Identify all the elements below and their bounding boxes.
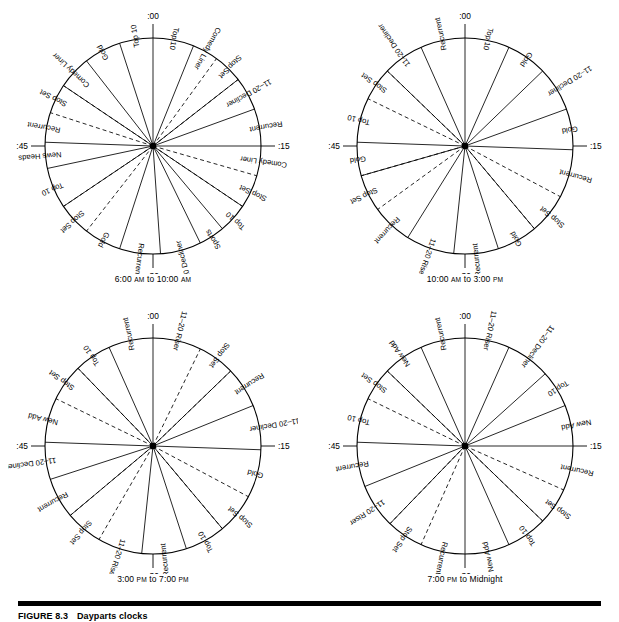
segment-divider (357, 442, 465, 446)
segment-divider (109, 347, 153, 446)
daypart-clock-afternoon: 11–20 RiserStop SetRecurrent11–20 Declin… (8, 306, 298, 606)
segment-label: Recurrent (133, 243, 146, 274)
hour-marker-label: :00 (459, 311, 471, 321)
segment-divider (421, 347, 465, 446)
meridiem-label: AM (451, 276, 461, 283)
segment-divider (153, 109, 254, 146)
segment-label: News Heads (18, 150, 62, 163)
segment-label: 11–20 Decliner (224, 77, 273, 110)
clock-caption-clock-evening: 7:00 PM to Midnight (320, 574, 610, 584)
segment-label: Top 10 (517, 524, 537, 548)
segment-label: New Add (480, 541, 495, 573)
segment-label: New Add (560, 418, 592, 433)
figure-title: Dayparts clocks (77, 611, 148, 621)
segment-label: Top 10 (347, 113, 371, 127)
daypart-clock-evening: 11–20 Riser11–20 DeclinerTop 10New AddRe… (320, 306, 610, 606)
segment-divider (70, 446, 153, 515)
segment-label: Comedy Liner (239, 154, 288, 170)
segment-label: New Add (27, 411, 59, 427)
hour-marker-label: :15 (278, 441, 290, 451)
meridiem-label: AM (134, 276, 144, 283)
segment-label: Stop Set (58, 209, 86, 236)
segment-divider (153, 371, 231, 446)
segment-label: Gold (95, 43, 110, 61)
segment-divider (465, 374, 545, 446)
segment-divider-dashed (378, 146, 465, 209)
hour-marker-label: :45 (328, 441, 340, 451)
segment-label: Stop Set (348, 185, 379, 206)
segment-divider-dashed (87, 146, 153, 231)
segment-divider (465, 47, 509, 146)
segment-divider-dashed (368, 399, 465, 446)
clock-hub (150, 143, 156, 149)
segment-label: 11–20 Riser (171, 310, 189, 352)
segment-divider (63, 146, 153, 206)
hour-marker-label: :15 (590, 441, 602, 451)
segment-label: Top 10 (196, 530, 215, 554)
segment-label: Recurrent (470, 242, 483, 274)
figure-caption: FIGURE 8.3Dayparts clocks (18, 611, 601, 621)
segment-divider (153, 146, 161, 254)
segment-divider (465, 446, 543, 521)
segment-divider (87, 61, 153, 146)
segment-divider (153, 146, 243, 206)
segment-divider (50, 446, 153, 479)
segment-divider-dashed (50, 113, 153, 146)
meridiem-label: PM (137, 576, 147, 583)
segment-label: 11–20 Riser (106, 538, 127, 574)
segment-divider (390, 446, 465, 524)
clock-diagram-clock-evening: 11–20 Riser11–20 DeclinerTop 10New AddRe… (320, 306, 610, 574)
segment-label: 11–20 Riser (481, 310, 498, 352)
clock-caption-clock-afternoon: 3:00 PM to 7:00 PM (8, 574, 298, 584)
hour-marker-label: :00 (459, 11, 471, 21)
segment-divider (387, 371, 465, 446)
segment-label: Stop Set (68, 518, 94, 547)
figure-page: Top 10Comedy LinerStop Set11–20 Decliner… (0, 0, 619, 622)
segment-label: Top 10 (81, 344, 101, 368)
segment-divider (45, 142, 153, 146)
segment-divider-dashed (153, 349, 200, 446)
segment-divider (465, 146, 534, 229)
segment-label: Stop Set (216, 53, 243, 81)
segment-label: Recurrent (334, 459, 369, 474)
segment-label: Top 10 (546, 379, 570, 399)
meridiem-label: PM (447, 576, 457, 583)
segment-divider (465, 71, 543, 146)
segment-divider (465, 146, 498, 249)
segment-label: Recurrent (121, 316, 137, 351)
segment-divider (153, 46, 193, 146)
segment-label: Gold (96, 231, 111, 249)
segment-label: Top 10 (129, 24, 141, 48)
segment-divider-dashed (153, 59, 216, 146)
segment-label: Recurrent (434, 541, 450, 574)
segment-divider (153, 406, 253, 446)
segment-label: Recurrent (433, 16, 449, 51)
hour-marker-label: :15 (590, 141, 602, 151)
figure-divider-rule (18, 601, 601, 606)
clock-hub (462, 143, 468, 149)
daypart-clock-midday: Top 10Gold11–20 DeclinerGoldRecurrentSto… (320, 6, 610, 306)
segment-label: Recurrent (26, 120, 61, 135)
segment-label: Top 10 (224, 210, 247, 232)
figure-number: FIGURE 8.3 (18, 611, 68, 621)
segment-divider (387, 71, 465, 146)
segment-divider-dashed (465, 446, 564, 490)
segment-divider (78, 368, 153, 446)
clock-diagram-clock-morning: Top 10Comedy LinerStop Set11–20 Decliner… (8, 6, 298, 274)
hour-marker-label: :45 (16, 441, 28, 451)
segment-divider (421, 47, 465, 146)
hour-marker-label: :45 (16, 141, 28, 151)
segment-label: Gold (561, 124, 578, 135)
segment-divider (153, 446, 222, 529)
segment-label: Top 10 (347, 413, 371, 427)
clock-diagram-clock-afternoon: 11–20 RiserStop SetRecurrent11–20 Declin… (8, 306, 298, 574)
segment-label: Recurrent (232, 371, 266, 397)
clock-caption-clock-midday: 10:00 AM to 3:00 PM (320, 274, 610, 284)
segment-label: 11–20 Decliner (248, 416, 298, 434)
daypart-clock-morning: Top 10Comedy LinerStop Set11–20 Decliner… (8, 6, 298, 306)
segment-divider (63, 86, 153, 146)
meridiem-label: PM (179, 576, 189, 583)
segment-label: Comedy Liner (50, 50, 91, 89)
segment-label: Stop Set (537, 204, 566, 230)
segment-divider-dashed (368, 99, 465, 146)
